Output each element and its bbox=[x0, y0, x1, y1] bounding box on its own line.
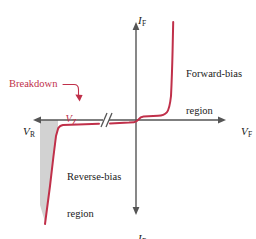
axis-label-vr: VR bbox=[12, 112, 35, 151]
axis-label-vr-symbol: V bbox=[23, 125, 30, 137]
axis-arrow-down bbox=[133, 207, 140, 215]
axis-label-vf-subscript: F bbox=[248, 130, 252, 139]
axis-label-ir: IR bbox=[127, 219, 147, 239]
axis-label-if-subscript: F bbox=[142, 19, 146, 28]
zener-voltage-subscript: Z bbox=[72, 118, 76, 127]
axis-label-vr-subscript: R bbox=[30, 130, 35, 139]
forward-bias-region-line1: Forward-bias bbox=[186, 68, 242, 80]
diode-iv-characteristic-figure: IF IR VF VR Breakdown VZ Forward-bias re… bbox=[0, 0, 256, 239]
axis-label-vf-symbol: V bbox=[241, 125, 248, 137]
zener-voltage-symbol: V bbox=[66, 113, 72, 124]
breakdown-callout-leader bbox=[63, 85, 79, 97]
axis-label-ir-subscript: R bbox=[142, 237, 147, 239]
reverse-bias-region-line1: Reverse-bias bbox=[67, 171, 121, 183]
breakdown-callout-label: Breakdown bbox=[9, 78, 57, 90]
reverse-bias-region-line2: region bbox=[67, 208, 121, 220]
zener-voltage-label: VZ bbox=[55, 101, 76, 138]
axis-label-if: IF bbox=[127, 1, 146, 40]
forward-bias-region-line2: region bbox=[186, 105, 242, 117]
reverse-bias-region-label: Reverse-bias region bbox=[67, 146, 121, 239]
forward-bias-region-label: Forward-bias region bbox=[186, 43, 242, 142]
breakdown-callout-arrowhead bbox=[75, 95, 82, 102]
